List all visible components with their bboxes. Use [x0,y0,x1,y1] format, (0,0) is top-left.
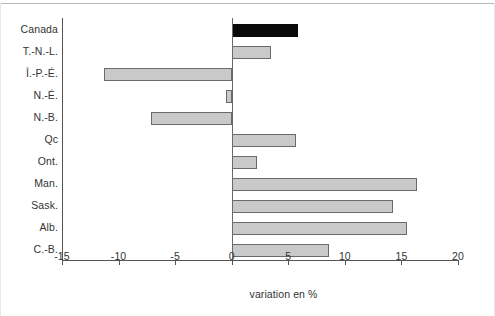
bar--p- [104,68,232,81]
category-label-9: Alb. [2,221,58,233]
bar-n-b- [151,112,231,125]
category-label-8: Sask. [2,199,58,211]
bar-t-n-l- [232,46,272,59]
category-label-0: Canada [2,23,58,35]
x-tick-label-0: -15 [32,250,92,262]
category-label-2: Î.-P.-É. [2,67,58,79]
category-axis-line [62,18,63,260]
x-axis-title-text: variation en % [250,288,318,300]
x-tick-label-7: 20 [428,250,488,262]
bar-ont- [232,156,257,169]
bar-alb- [232,222,407,235]
x-tick-label-6: 15 [371,250,431,262]
category-label-5: Qc [2,133,58,145]
top-divider-rule [0,3,495,4]
bar-sask- [232,200,394,213]
category-axis-labels: CanadaT.-N.-L.Î.-P.-É.N.-É.N.-B.QcOnt.Ma… [0,18,58,260]
chart-screenshot: CanadaT.-N.-L.Î.-P.-É.N.-É.N.-B.QcOnt.Ma… [0,0,495,316]
x-tick-label-4: 5 [258,250,318,262]
x-tick-label-3: 0 [202,250,262,262]
category-label-1: T.-N.-L. [2,45,58,57]
category-label-3: N.-É. [2,89,58,101]
plot-area [62,18,458,260]
category-label-7: Man. [2,177,58,189]
x-tick-label-2: -5 [145,250,205,262]
zero-reference-line [232,18,233,260]
x-tick-label-1: -10 [89,250,149,262]
bar-canada [232,24,299,37]
x-axis-title: variation en % [0,288,495,300]
bar-qc [232,134,296,147]
category-label-6: Ont. [2,155,58,167]
x-tick-label-5: 10 [315,250,375,262]
category-label-4: N.-B. [2,111,58,123]
bar-man- [232,178,418,191]
